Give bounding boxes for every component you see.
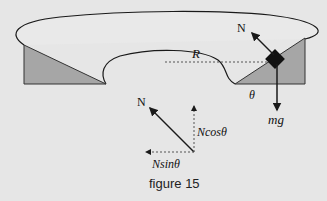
n-cos-label: Ncosθ bbox=[196, 125, 227, 139]
banked-curve-diagram: R N mg θ N Ncosθ Nsinθ figure 15 bbox=[0, 0, 327, 201]
inner-rim bbox=[103, 50, 235, 84]
normal-force-decomposed-arrow bbox=[150, 108, 194, 152]
weight-label: mg bbox=[268, 112, 284, 127]
normal-force-decomposed-label: N bbox=[137, 95, 146, 109]
angle-label: θ bbox=[249, 88, 255, 102]
n-sin-label: Nsinθ bbox=[151, 157, 180, 171]
radius-label: R bbox=[191, 46, 200, 61]
outer-rim bbox=[16, 11, 318, 45]
left-incline bbox=[24, 45, 106, 84]
normal-force-label: N bbox=[237, 21, 246, 35]
figure-caption: figure 15 bbox=[149, 176, 200, 191]
